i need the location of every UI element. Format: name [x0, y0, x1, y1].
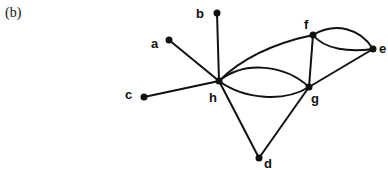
edge-a-h — [169, 40, 219, 81]
label-g: g — [311, 91, 319, 106]
edge-h-g-lower — [219, 81, 309, 97]
edge-g-e — [309, 49, 373, 87]
label-f: f — [304, 17, 309, 32]
label-h: h — [209, 90, 217, 105]
edge-f-g — [309, 35, 313, 87]
graph-diagram: a b c d e f g h — [0, 0, 388, 170]
label-d: d — [264, 156, 272, 170]
label-a: a — [151, 36, 159, 51]
label-e: e — [379, 41, 386, 56]
edge-h-f — [219, 35, 313, 81]
node-c — [141, 94, 148, 101]
edge-b-h — [217, 13, 219, 81]
label-c: c — [125, 87, 132, 102]
label-b: b — [196, 6, 204, 21]
node-d — [256, 155, 263, 162]
node-e — [370, 46, 377, 53]
edge-f-e-upper — [313, 28, 373, 49]
node-b — [214, 10, 221, 17]
edge-c-h — [144, 81, 219, 97]
edge-h-g-upper — [219, 68, 309, 87]
node-a — [166, 37, 173, 44]
node-h — [216, 78, 223, 85]
node-f — [310, 32, 317, 39]
node-g — [306, 84, 313, 91]
